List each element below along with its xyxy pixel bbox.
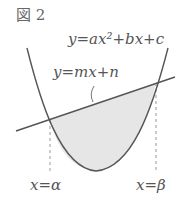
- figure-title: 図 2: [16, 8, 45, 23]
- figure-canvas: 図 2 y=ax²+bx+c y=mx+n x=α x=β: [0, 0, 195, 206]
- label-leader: [91, 86, 94, 102]
- beta-label: x=β: [136, 178, 166, 193]
- parabola-equation-label: y=ax²+bx+c: [68, 32, 164, 47]
- alpha-label: x=α: [30, 178, 61, 193]
- line-equation-label: y=mx+n: [53, 65, 119, 80]
- shaded-region: [50, 83, 156, 171]
